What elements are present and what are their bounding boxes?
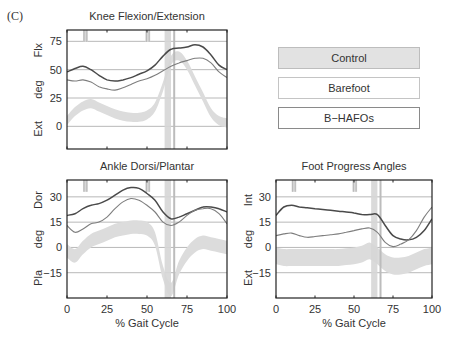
y-tick-label: 0 bbox=[56, 241, 62, 253]
toe-off-band bbox=[165, 30, 171, 149]
x-tick-label: 100 bbox=[218, 303, 236, 315]
y-tick-label: 75 bbox=[50, 35, 62, 47]
x-tick-label: 25 bbox=[309, 303, 321, 315]
y-tick-label: −15 bbox=[43, 267, 62, 279]
x-axis-label: % Gait Cycle bbox=[115, 317, 179, 329]
y-tick-label: 15 bbox=[50, 216, 62, 228]
y-axis-label: Pla bbox=[32, 269, 44, 286]
x-tick-label: 75 bbox=[387, 303, 399, 315]
y-axis-label: Flx bbox=[32, 42, 44, 57]
y-axis-label: Ext bbox=[242, 270, 254, 286]
barefoot-line bbox=[67, 58, 227, 90]
x-tick-label: 25 bbox=[101, 303, 113, 315]
ankle-dorsi-plantar-chart: 0255075100−1501530Ankle Dorsi/Plantar% G… bbox=[32, 160, 236, 329]
y-tick-label: 0 bbox=[56, 120, 62, 132]
b-hafos-line bbox=[67, 45, 227, 81]
x-tick-label: 75 bbox=[181, 303, 193, 315]
x-tick-label: 50 bbox=[141, 303, 153, 315]
foot-progress-chart: 0255075100−1501530Foot Progress Angles% … bbox=[242, 160, 441, 329]
control-band bbox=[67, 220, 227, 296]
y-axis-label: deg bbox=[242, 230, 254, 248]
axes-frame bbox=[276, 180, 432, 298]
x-tick-label: 0 bbox=[273, 303, 279, 315]
y-axis-label: deg bbox=[32, 80, 44, 98]
control-band bbox=[67, 51, 227, 127]
y-tick-label: 50 bbox=[50, 64, 62, 76]
toe-off-band bbox=[371, 180, 377, 298]
y-tick-label: 30 bbox=[259, 191, 271, 203]
y-tick-label: −15 bbox=[252, 267, 271, 279]
toe-off-band bbox=[165, 180, 171, 298]
legend-item-barefoot: Barefoot bbox=[278, 77, 420, 99]
chart-title: Foot Progress Angles bbox=[301, 160, 407, 172]
y-axis-label: deg bbox=[32, 230, 44, 248]
y-axis-label: Dor bbox=[32, 191, 44, 209]
chart-title: Knee Flexion/Extension bbox=[89, 10, 205, 22]
knee-flexion-chart: 0255075Knee Flexion/ExtensionExtdegFlx bbox=[32, 10, 227, 149]
y-tick-label: 30 bbox=[50, 191, 62, 203]
y-tick-label: 25 bbox=[50, 92, 62, 104]
y-axis-label: Int bbox=[242, 194, 254, 206]
x-tick-label: 50 bbox=[348, 303, 360, 315]
x-tick-label: 0 bbox=[64, 303, 70, 315]
chart-title: Ankle Dorsi/Plantar bbox=[100, 160, 194, 172]
b-hafos-line bbox=[67, 187, 227, 219]
y-tick-label: 0 bbox=[265, 241, 271, 253]
legend-item-b-hafos: B−HAFOs bbox=[278, 107, 420, 129]
y-tick-label: 15 bbox=[259, 216, 271, 228]
y-axis-label: Ext bbox=[32, 121, 44, 137]
x-axis-label: % Gait Cycle bbox=[322, 317, 386, 329]
legend-item-control: Control bbox=[278, 47, 420, 69]
x-tick-label: 100 bbox=[423, 303, 441, 315]
